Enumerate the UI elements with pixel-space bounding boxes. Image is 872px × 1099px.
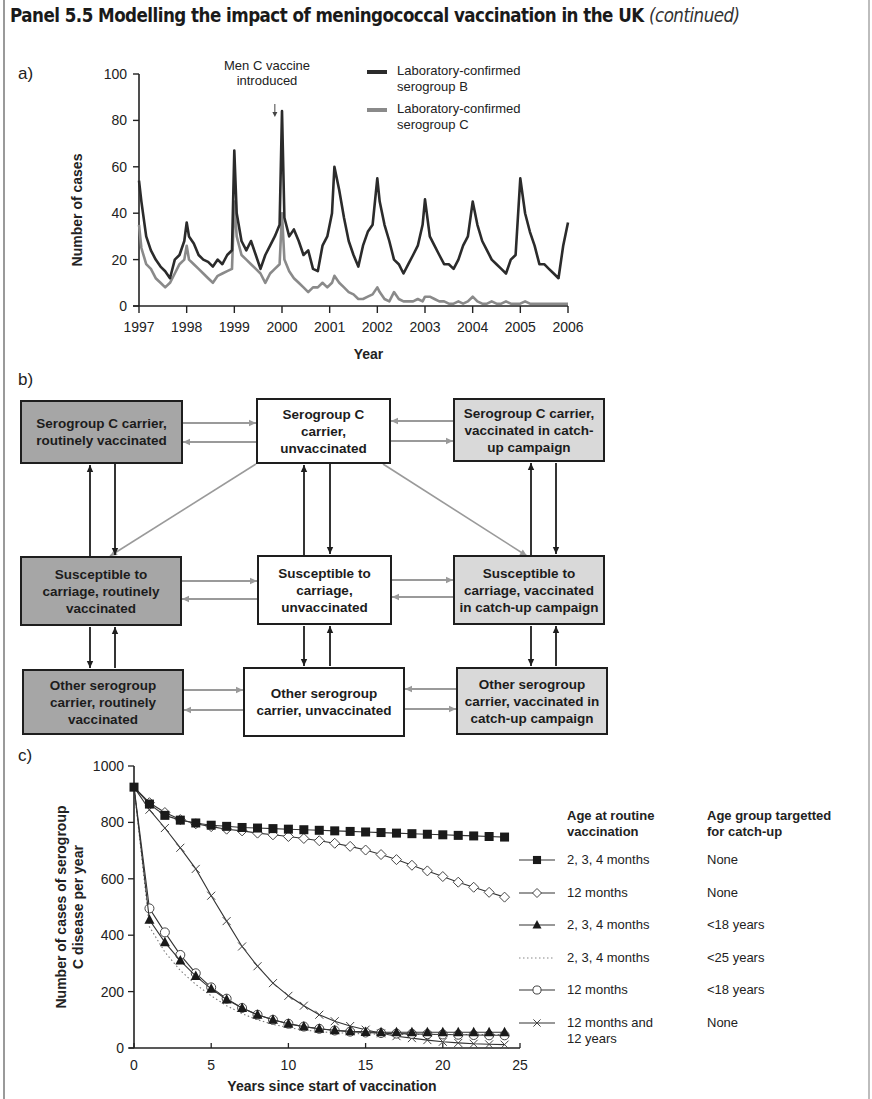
legend-header-routine: Age at routinevaccination [567,808,654,840]
legend-catchup-age: None [707,1015,738,1030]
legend-routine-age: 2, 3, 4 months [567,950,649,966]
y-tick-label: 1000 [93,758,124,774]
legend-marker-filled-triangle-icon [515,917,559,933]
series-2 [134,787,510,1036]
series-1 [134,787,510,902]
y-tick-label: 400 [101,927,125,943]
legend-marker-x-icon [515,1015,559,1031]
svg-text:C disease per year: C disease per year [70,845,86,969]
legend-routine-age: 2, 3, 4 months [567,917,649,933]
legend-catchup-age: None [707,852,738,867]
svg-text:Number of cases of serogroup: Number of cases of serogroup [53,805,69,1008]
legend-item: 12 months and12 yearsNone [515,1015,855,1035]
x-tick-label: 15 [358,1057,374,1073]
legend-routine-age: 12 months [567,982,628,998]
legend-catchup-age: <25 years [707,950,764,965]
legend-item: 12 monthsNone [515,885,855,905]
y-tick-label: 800 [101,814,125,830]
legend-routine-age: 12 months and12 years [567,1015,653,1047]
legend-routine-age: 12 months [567,885,628,901]
y-tick-label: 600 [101,871,125,887]
series-0 [130,783,510,842]
legend-routine-age: 2, 3, 4 months [567,852,649,868]
legend-item: 2, 3, 4 months<25 years [515,950,855,970]
x-tick-label: 10 [281,1057,297,1073]
legend-marker-filled-square-icon [515,852,559,868]
legend-item: 2, 3, 4 months<18 years [515,917,855,937]
x-axis-label: Years since start of vaccination [227,1078,436,1094]
y-tick-label: 0 [116,1040,124,1056]
legend-catchup-age: <18 years [707,917,764,932]
series-3 [134,787,505,1034]
y-axis-label: Number of cases of serogroupC disease pe… [53,805,86,1008]
legend-marker-open-circle-icon [515,982,559,998]
legend-marker-none-icon [515,950,559,966]
y-tick-label: 200 [101,984,125,1000]
series-4 [134,787,509,1040]
x-tick-label: 5 [207,1057,215,1073]
legend-marker-open-diamond-icon [515,885,559,901]
legend-catchup-age: <18 years [707,982,764,997]
legend-header-catchup: Age group targettedfor catch-up [707,808,831,840]
x-tick-label: 20 [435,1057,451,1073]
x-tick-label: 0 [130,1057,138,1073]
legend-item: 2, 3, 4 monthsNone [515,852,855,872]
x-tick-label: 25 [512,1057,528,1073]
legend-item: 12 months<18 years [515,982,855,1002]
legend-catchup-age: None [707,885,738,900]
